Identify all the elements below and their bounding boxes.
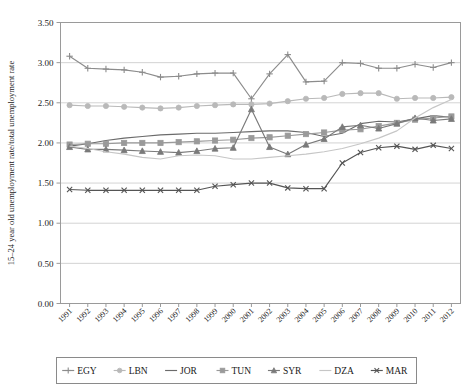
legend-label: TUN <box>232 366 252 376</box>
y-tick-label: 2.50 <box>38 98 54 108</box>
chart-figure: 15–24 year old unemployment rate/total u… <box>0 0 469 391</box>
y-tick-label: 3.50 <box>38 18 54 28</box>
line-chart-canvas: 15–24 year old unemployment rate/total u… <box>0 0 469 391</box>
y-axis-title: 15–24 year old unemployment rate/total u… <box>6 61 16 266</box>
legend-label: JOR <box>180 366 198 376</box>
legend-label: SYR <box>283 366 302 376</box>
y-tick-label: 1.00 <box>38 218 54 228</box>
y-tick-label: 2.00 <box>38 138 54 148</box>
y-tick-label: 0.00 <box>38 299 54 309</box>
legend-label: DZA <box>334 366 354 376</box>
y-tick-label: 1.50 <box>38 178 54 188</box>
legend-label: MAR <box>386 366 408 376</box>
legend-label: EGY <box>77 366 97 376</box>
y-tick-label: 0.50 <box>38 259 54 269</box>
chart-background <box>0 0 469 391</box>
y-axis-title-group: 15–24 year old unemployment rate/total u… <box>6 61 16 266</box>
legend-label: LBN <box>129 366 148 376</box>
y-tick-label: 3.00 <box>38 58 54 68</box>
